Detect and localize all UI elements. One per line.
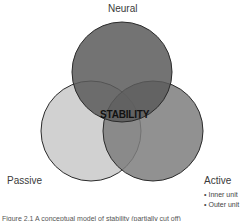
neural-circle — [72, 22, 172, 122]
active-label: Active — [204, 176, 231, 186]
stability-label: STABILITY — [100, 109, 149, 120]
active-item-inner-unit: Inner unit — [204, 190, 239, 200]
neural-label: Neural — [108, 4, 137, 14]
active-item-outer-unit: Outer unit — [204, 200, 239, 210]
active-subitems: Inner unit Outer unit — [204, 190, 239, 210]
figure-caption: Figure 2.1 A conceptual model of stabili… — [2, 215, 181, 221]
passive-label: Passive — [7, 176, 42, 186]
